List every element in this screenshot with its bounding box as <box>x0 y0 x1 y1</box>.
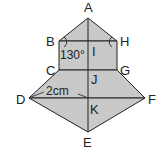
label-A: A <box>84 0 93 15</box>
label-J: J <box>91 72 98 87</box>
angle-label: 130° <box>60 48 85 62</box>
label-B: B <box>46 34 55 49</box>
geometry-diagram: A B H I C G J D F K E 130° 2cm <box>0 0 168 152</box>
label-H: H <box>120 34 129 49</box>
length-label: 2cm <box>46 84 69 98</box>
label-F: F <box>148 92 156 107</box>
label-G: G <box>120 63 130 78</box>
label-K: K <box>90 102 99 117</box>
label-D: D <box>16 92 25 107</box>
label-I: I <box>92 44 96 59</box>
label-C: C <box>46 63 55 78</box>
triangle-DEF <box>29 98 145 132</box>
label-E: E <box>83 135 92 150</box>
